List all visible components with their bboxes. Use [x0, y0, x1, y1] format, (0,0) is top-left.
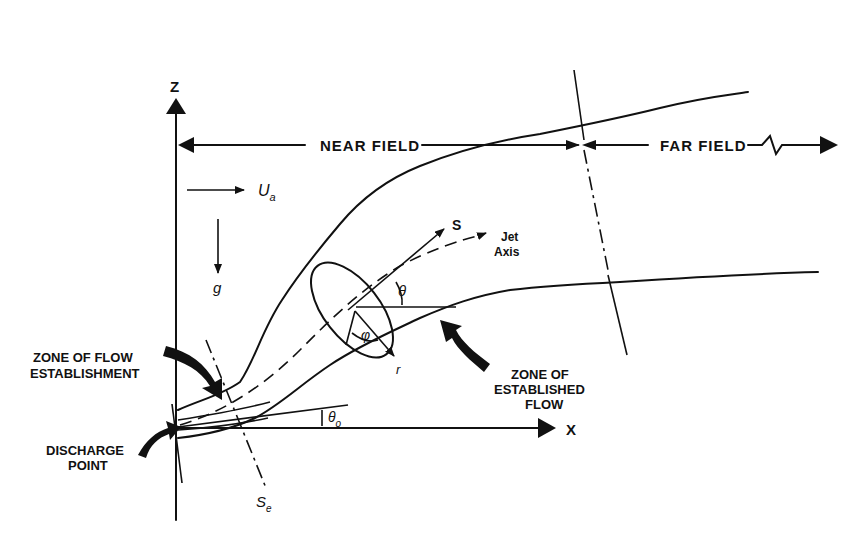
field-boundary-line [574, 70, 584, 140]
near-field-left-arrow-icon [178, 137, 194, 153]
far-field-arrow-icon [820, 136, 838, 154]
zone-flow-establishment-pointer-icon [163, 346, 222, 400]
discharge-point-pointer-icon [138, 421, 181, 458]
establishment-length-label: Se [256, 493, 272, 514]
ambient-velocity-label: Ua [258, 182, 276, 203]
jet-axis-label-line2: Axis [494, 245, 520, 259]
x-axis-label: X [566, 421, 576, 438]
discharge-point-label-line2: POINT [68, 458, 108, 473]
jet-centerline [180, 236, 478, 425]
radial-reference-line [346, 311, 355, 345]
z-axis [166, 98, 186, 520]
phi-label: φ [361, 327, 370, 343]
zone-established-flow-label-line3: FLOW [525, 397, 564, 412]
zone-established-flow-label-line1: ZONE OF [511, 367, 569, 382]
jet-axis-label-line1: Jet [501, 230, 518, 244]
zone-established-flow-pointer-icon [440, 320, 490, 372]
zone-flow-establishment-label-line1: ZONE OF FLOW [33, 350, 133, 365]
radial-label: r [396, 362, 401, 377]
x-axis [176, 418, 556, 438]
zone-flow-establishment-label-line2: ESTABLISHMENT [30, 366, 140, 381]
far-field-label: FAR FIELD [660, 137, 747, 154]
z-axis-label: Z [170, 78, 179, 95]
gravity-label: g [213, 279, 222, 296]
s-coordinate-arrow [348, 229, 444, 310]
s-coordinate-label: S [452, 217, 461, 233]
jet-diagram: Z X NEAR FIELD FAR FIELD Ua g Jet [0, 0, 867, 540]
discharge-point-label-line1: DISCHARGE [46, 443, 124, 458]
near-field-label: NEAR FIELD [320, 137, 420, 154]
jet-axis-arrow [478, 233, 486, 236]
x-axis-arrow-icon [538, 418, 556, 438]
zone-established-flow-label-line2: ESTABLISHED [494, 382, 585, 397]
theta-label: θ [398, 282, 406, 299]
jet-lower-boundary [178, 272, 818, 438]
initial-angle-label: θo [328, 409, 342, 429]
z-axis-arrow-icon [166, 98, 186, 114]
